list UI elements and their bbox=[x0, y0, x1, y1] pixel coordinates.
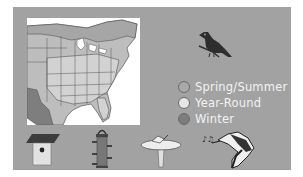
spring-summer-swatch bbox=[178, 81, 190, 93]
singing-bird-icon: ♪♫ bbox=[202, 126, 258, 170]
birdbath-icon bbox=[141, 135, 181, 167]
legend-label: Spring/Summer bbox=[195, 80, 287, 94]
winter-swatch bbox=[178, 113, 190, 125]
legend-item-spring-summer: Spring/Summer bbox=[178, 79, 287, 95]
legend: Spring/Summer Year-Round Winter bbox=[178, 79, 287, 127]
legend-label: Winter bbox=[195, 112, 234, 126]
bird-silhouette-icon bbox=[195, 29, 235, 63]
year-round-swatch bbox=[178, 97, 190, 109]
range-map bbox=[27, 18, 140, 125]
legend-label: Year-Round bbox=[195, 96, 261, 110]
habitat-icons: ♪♫ bbox=[0, 125, 303, 170]
legend-item-year-round: Year-Round bbox=[178, 95, 287, 111]
feeder-icon bbox=[90, 127, 114, 169]
birdhouse-icon bbox=[24, 131, 62, 167]
